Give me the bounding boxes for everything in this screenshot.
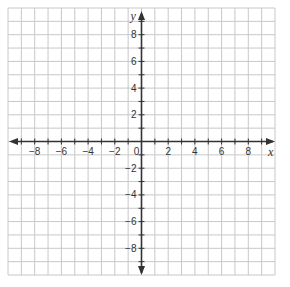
- y-axis-label: y: [130, 9, 137, 23]
- x-tick-label: 0: [134, 146, 140, 157]
- x-tick-label: −8: [29, 146, 41, 157]
- x-tick-label: −6: [56, 146, 68, 157]
- x-tick-label: 8: [246, 146, 252, 157]
- x-tick-label: 2: [165, 146, 171, 157]
- x-axis-label: x: [267, 145, 274, 159]
- x-tick-label: 4: [192, 146, 198, 157]
- y-tick-label: −2: [125, 163, 137, 174]
- y-tick-label: 6: [131, 56, 137, 67]
- y-tick-label: −6: [125, 216, 137, 227]
- y-tick-label: −4: [125, 189, 137, 200]
- x-tick-label: −4: [82, 146, 94, 157]
- y-tick-label: −8: [125, 243, 137, 254]
- coordinate-plane: −8−6−4−2024688642−2−4−6−8 x y: [0, 0, 290, 287]
- y-tick-label: 4: [131, 83, 137, 94]
- x-tick-label: −2: [109, 146, 121, 157]
- y-tick-label: 8: [131, 29, 137, 40]
- x-tick-label: 6: [219, 146, 225, 157]
- y-tick-label: 2: [131, 109, 137, 120]
- y-axis-arrow-up-icon: [138, 11, 145, 20]
- x-axis-arrow-left-icon: [9, 138, 18, 145]
- y-axis-arrow-down-icon: [138, 266, 145, 275]
